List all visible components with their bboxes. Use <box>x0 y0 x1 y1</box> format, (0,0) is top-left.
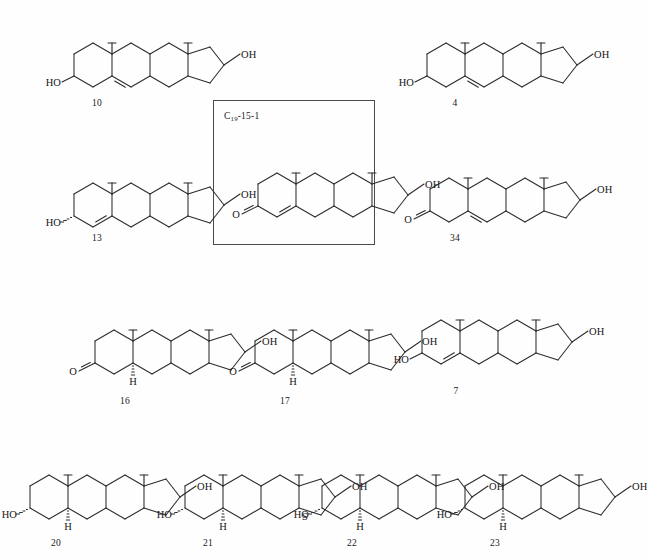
svg-text:OH: OH <box>241 189 257 200</box>
compound-number-16: 16 <box>105 396 145 406</box>
compound-number-13: 13 <box>77 233 117 243</box>
svg-text:H: H <box>289 376 297 387</box>
svg-text:HO: HO <box>399 77 415 88</box>
svg-text:OH: OH <box>632 481 648 492</box>
compound-number-7: 7 <box>436 386 476 396</box>
compound-number-20: 20 <box>36 538 76 548</box>
structure-7: HOOH <box>400 285 605 390</box>
svg-text:H: H <box>499 521 507 532</box>
compound-number-22: 22 <box>332 538 372 548</box>
compound-number-21: 21 <box>188 538 228 548</box>
svg-text:OH: OH <box>589 326 605 337</box>
compound-number-10: 10 <box>77 98 117 108</box>
svg-text:HO: HO <box>394 354 410 365</box>
structure-23: HOOHH <box>443 440 648 545</box>
svg-text:HO: HO <box>46 77 62 88</box>
svg-text:HO: HO <box>437 509 453 520</box>
svg-text:HO: HO <box>294 509 310 520</box>
svg-text:OH: OH <box>597 184 613 195</box>
svg-text:OH: OH <box>241 49 257 60</box>
svg-text:HO: HO <box>46 217 62 228</box>
svg-text:H: H <box>64 521 72 532</box>
svg-text:O: O <box>404 214 412 225</box>
compound-number-34: 34 <box>435 233 475 243</box>
svg-text:HO: HO <box>157 509 173 520</box>
svg-text:OH: OH <box>594 49 610 60</box>
compound-number-4: 4 <box>435 98 475 108</box>
ref-label-subscript: 19 <box>231 115 238 122</box>
svg-text:O: O <box>69 366 77 377</box>
svg-text:H: H <box>219 521 227 532</box>
svg-text:HO: HO <box>2 509 18 520</box>
svg-text:O: O <box>229 366 237 377</box>
compound-number-17: 17 <box>265 396 305 406</box>
svg-text:H: H <box>129 376 137 387</box>
svg-text:H: H <box>356 521 364 532</box>
compound-number-23: 23 <box>475 538 515 548</box>
